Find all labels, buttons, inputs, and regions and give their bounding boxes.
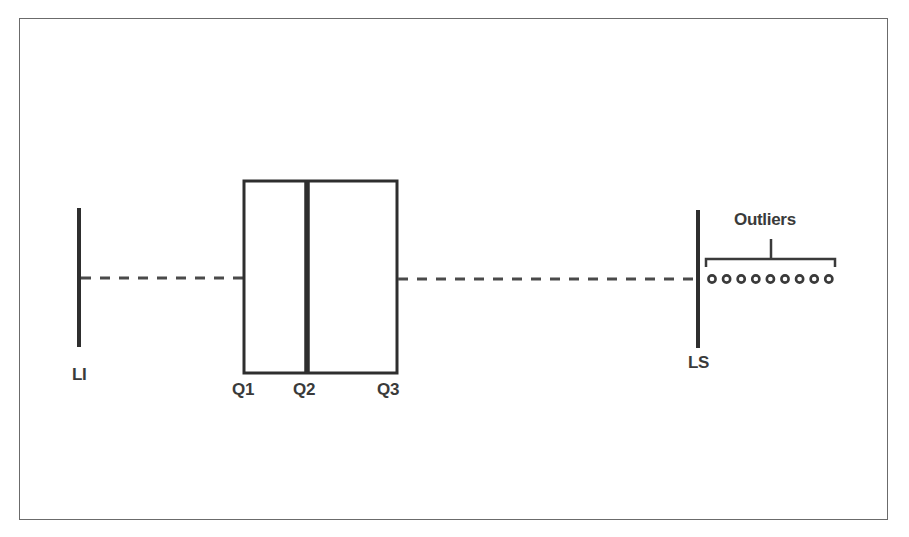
box-plot-diagram — [0, 0, 909, 537]
outlier-point — [723, 275, 730, 282]
outlier-point — [781, 275, 788, 282]
outlier-point — [796, 275, 803, 282]
q1-label: Q1 — [232, 381, 254, 398]
outlier-point — [738, 275, 745, 282]
q2-label: Q2 — [293, 381, 315, 398]
outlier-point — [752, 275, 759, 282]
lower-limit-label: LI — [72, 366, 87, 383]
q3-label: Q3 — [377, 381, 399, 398]
outlier-points — [708, 275, 832, 282]
outlier-point — [811, 275, 818, 282]
outliers-bracket — [706, 239, 835, 267]
upper-limit-label: LS — [688, 354, 709, 371]
outlier-point — [767, 275, 774, 282]
iqr-box — [244, 181, 397, 373]
outlier-point — [825, 275, 832, 282]
outliers-label: Outliers — [734, 211, 796, 228]
outlier-point — [708, 275, 715, 282]
